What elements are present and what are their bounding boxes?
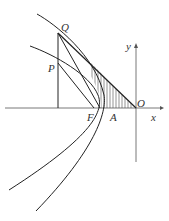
y-axis-arrow-icon: [134, 43, 138, 48]
line-qo: [58, 33, 136, 108]
label-a: A: [109, 111, 117, 123]
label-o: O: [137, 97, 145, 109]
label-q: Q: [61, 21, 69, 33]
parabola-outer: [36, 14, 104, 211]
label-p: P: [47, 62, 55, 74]
diagram-canvas: Q P F A O x y: [0, 0, 169, 221]
x-axis-arrow-icon: [160, 106, 164, 110]
label-f: F: [86, 111, 94, 123]
label-y: y: [125, 40, 131, 52]
label-x: x: [150, 111, 156, 123]
